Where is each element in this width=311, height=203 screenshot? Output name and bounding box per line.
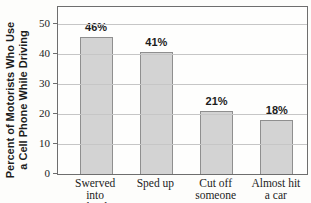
gridline-40 bbox=[58, 54, 307, 55]
x-category-label-3: Almost hita car bbox=[246, 177, 306, 203]
x-category-label-2: Cut offsomeone bbox=[186, 177, 246, 203]
bar-0 bbox=[80, 37, 113, 174]
bar-1 bbox=[140, 52, 173, 174]
x-category-label-line: Swerved into bbox=[65, 177, 125, 201]
y-tick-mark-10 bbox=[53, 143, 57, 144]
y-tick-mark-40 bbox=[53, 53, 57, 54]
x-category-label-line: a car bbox=[246, 189, 306, 201]
y-tick-label-0: 0 bbox=[0, 167, 50, 180]
bar-slot-1: 41% bbox=[126, 37, 186, 174]
gridline-30 bbox=[58, 84, 307, 85]
y-axis-title: Percent of Motorists Who Use a Cell Phon… bbox=[4, 10, 30, 190]
gridline-50 bbox=[58, 24, 307, 25]
bar-value-label-1: 41% bbox=[145, 37, 167, 48]
bar-slot-0: 46% bbox=[66, 22, 126, 174]
x-category-label-0: Swerved intoanother lane bbox=[65, 177, 125, 203]
bar-slot-2: 21% bbox=[187, 96, 247, 174]
y-tick-label-40: 40 bbox=[0, 47, 50, 60]
gridline-10 bbox=[58, 144, 307, 145]
x-category-label-line: Almost hit bbox=[246, 177, 306, 189]
y-tick-mark-50 bbox=[53, 23, 57, 24]
bar-chart-figure: Percent of Motorists Who Use a Cell Phon… bbox=[0, 0, 311, 203]
x-category-label-1: Sped up bbox=[125, 177, 185, 203]
gridline-20 bbox=[58, 114, 307, 115]
y-tick-label-30: 30 bbox=[0, 77, 50, 90]
x-category-label-line: another lane bbox=[65, 201, 125, 203]
y-tick-label-20: 20 bbox=[0, 107, 50, 120]
x-axis-labels: Swerved intoanother laneSped upCut offso… bbox=[57, 177, 306, 203]
y-axis-title-line-2: a Cell Phone While Driving bbox=[17, 10, 30, 190]
y-tick-label-50: 50 bbox=[0, 17, 50, 30]
bar-value-label-2: 21% bbox=[206, 96, 228, 107]
y-axis-title-line-1: Percent of Motorists Who Use bbox=[4, 10, 17, 190]
bar-slot-3: 18% bbox=[247, 105, 307, 174]
y-tick-mark-0 bbox=[53, 173, 57, 174]
y-tick-mark-20 bbox=[53, 113, 57, 114]
y-tick-label-10: 10 bbox=[0, 137, 50, 150]
x-category-label-line: Sped up bbox=[125, 177, 185, 189]
x-category-label-line: Cut off bbox=[186, 177, 246, 189]
x-category-label-line: someone bbox=[186, 189, 246, 201]
bar-2 bbox=[200, 111, 233, 174]
plot-area: 46%41%21%18% bbox=[57, 6, 308, 175]
bar-3 bbox=[260, 120, 293, 174]
y-tick-mark-30 bbox=[53, 83, 57, 84]
bars-layer: 46%41%21%18% bbox=[58, 7, 307, 174]
